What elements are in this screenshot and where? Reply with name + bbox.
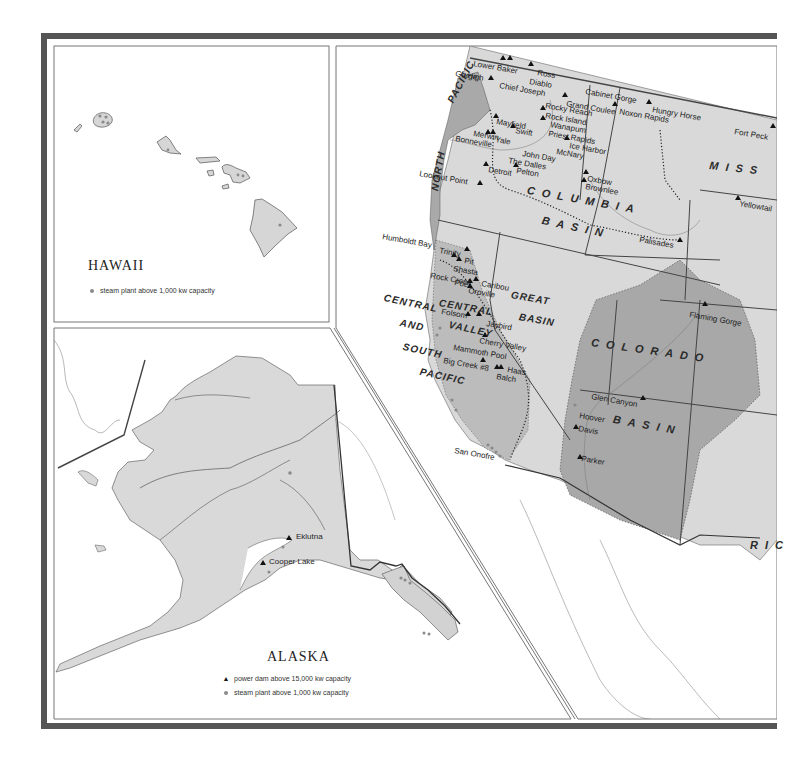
alaska-legend-steam-label: steam plant above 1,000 kw capacity	[234, 689, 349, 696]
alaska-legend-dam: ▲power dam above 15,000 kw capacity	[222, 675, 351, 682]
alaska-legend-dam-label: power dam above 15,000 kw capacity	[234, 675, 351, 682]
hawaii-legend-label: steam plant above 1,000 kw capacity	[100, 287, 215, 294]
hawaii-panel-border	[54, 46, 329, 322]
hawaii-title: HAWAII	[88, 258, 144, 274]
power-dam-triangle-icon: ▲	[222, 675, 230, 682]
steam-plant-dot-icon	[88, 287, 96, 294]
steam-plant-dot-icon	[222, 689, 230, 696]
dam-label-eklutna: Eklutna	[296, 533, 323, 541]
hawaii-legend: steam plant above 1,000 kw capacity	[88, 287, 215, 294]
dam-label-cooper-lake: Cooper Lake	[269, 558, 315, 566]
region-label: RIC	[750, 540, 788, 551]
alaska-legend-steam: steam plant above 1,000 kw capacity	[222, 689, 349, 696]
alaska-title: ALASKA	[267, 649, 330, 665]
